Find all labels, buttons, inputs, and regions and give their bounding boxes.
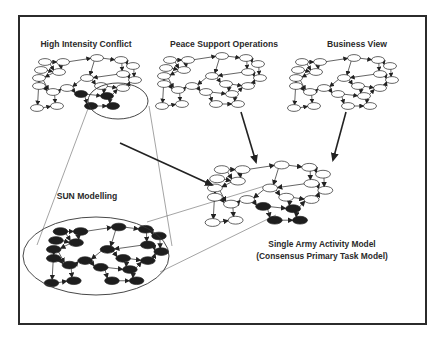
- graph-edge: [198, 77, 207, 84]
- graph-edge: [93, 74, 117, 77]
- graph-node-highlighted: [111, 223, 126, 231]
- graph-node: [33, 83, 46, 90]
- graph-node: [206, 73, 219, 80]
- graph-node: [214, 166, 229, 174]
- graph-edge: [307, 64, 311, 70]
- graph-node-highlighted: [286, 205, 301, 213]
- graph-node-highlighted: [100, 246, 115, 254]
- graph-edge: [302, 73, 310, 77]
- graph-node-highlighted: [141, 257, 156, 265]
- graph-edge: [300, 106, 308, 107]
- graph-node: [290, 83, 303, 90]
- graph-edge: [92, 251, 102, 259]
- graph-edge: [180, 93, 181, 101]
- graph-edge: [249, 165, 274, 169]
- graph-node: [226, 91, 239, 98]
- graph-node: [279, 193, 294, 201]
- graph-edge: [233, 207, 234, 216]
- graph-node: [35, 67, 48, 74]
- graph-edge: [87, 227, 111, 231]
- graph-node: [230, 177, 245, 185]
- graph-edge: [228, 56, 240, 57]
- graph-node: [158, 73, 171, 80]
- graph-node: [53, 69, 66, 76]
- peace-support-operations-label: Peace Support Operations: [170, 40, 278, 49]
- graph-node-highlighted: [73, 228, 88, 236]
- hic-to-sun-arrow: [120, 143, 212, 185]
- graph-node: [207, 184, 222, 192]
- consensus-primary-task-model-label: (Consensus Primary Task Model): [256, 252, 388, 260]
- graph-node: [242, 83, 255, 90]
- graph-node: [352, 83, 365, 90]
- graph-node: [158, 81, 171, 88]
- graph-node: [235, 166, 250, 174]
- graph-node-highlighted: [44, 279, 59, 287]
- graph-node: [274, 161, 289, 169]
- graph-node-highlighted: [141, 241, 156, 249]
- sun-modelling-zoomed-graph: [44, 223, 168, 287]
- graph-edge: [45, 73, 53, 77]
- graph-node: [240, 55, 253, 62]
- graph-edge: [254, 190, 264, 198]
- graph-edge: [213, 201, 214, 219]
- diagram-canvas: [0, 0, 443, 341]
- graph-edge: [276, 190, 280, 196]
- callout-lines: [37, 106, 276, 272]
- graph-node-highlighted: [123, 266, 138, 274]
- graph-node: [220, 81, 233, 88]
- graph-edge: [170, 71, 178, 75]
- graph-edge: [50, 64, 54, 70]
- business-view-graph: [288, 55, 399, 112]
- graph-node: [117, 85, 130, 92]
- graph-edge: [237, 87, 242, 92]
- graph-edge: [312, 95, 313, 103]
- graph-edge: [218, 72, 242, 75]
- graph-edge: [222, 182, 231, 187]
- graph-node: [304, 179, 319, 187]
- graph-node: [252, 61, 265, 68]
- graph-node: [310, 69, 323, 76]
- graph-node: [240, 196, 255, 204]
- business-to-model-arrow: [333, 112, 346, 160]
- graph-node-highlighted: [67, 277, 82, 285]
- graph-node-highlighted: [256, 202, 271, 210]
- graph-edge: [330, 79, 339, 86]
- graph-node: [288, 105, 301, 112]
- graph-node-highlighted: [105, 277, 120, 285]
- graph-edge: [219, 221, 228, 223]
- graph-edge: [268, 209, 270, 217]
- graph-node: [176, 101, 189, 108]
- graph-edge: [273, 168, 278, 185]
- graph-node-highlighted: [93, 264, 108, 272]
- sun-modelling-label: SUN Modelling: [57, 192, 118, 201]
- graph-edge: [38, 89, 39, 105]
- graph-node: [263, 184, 278, 192]
- graph-node: [318, 186, 333, 194]
- graph-edge: [295, 89, 296, 105]
- graph-node: [207, 193, 222, 201]
- graph-edge: [58, 281, 66, 283]
- graph-node-highlighted: [101, 93, 114, 100]
- graph-node: [374, 85, 387, 92]
- graph-node: [39, 59, 52, 66]
- graph-node-highlighted: [107, 103, 120, 110]
- graph-node: [127, 63, 140, 70]
- graph-edge: [194, 56, 216, 59]
- graph-node: [348, 55, 361, 62]
- graph-edge: [360, 58, 372, 59]
- graph-edge: [210, 94, 212, 101]
- graph-node: [332, 91, 345, 98]
- graph-node: [372, 57, 385, 64]
- pso-to-model-arrow: [241, 112, 256, 162]
- graph-node: [314, 59, 327, 66]
- graph-edge: [125, 227, 138, 229]
- graph-node-highlighted: [62, 261, 77, 269]
- graph-node-highlighted: [267, 216, 282, 224]
- graph-edge: [105, 270, 107, 278]
- graph-node: [115, 57, 128, 64]
- graph-edge: [43, 106, 51, 107]
- graph-edge: [73, 79, 82, 86]
- graph-edge: [217, 77, 220, 82]
- graph-node-highlighted: [49, 237, 64, 245]
- graph-edge: [350, 74, 374, 77]
